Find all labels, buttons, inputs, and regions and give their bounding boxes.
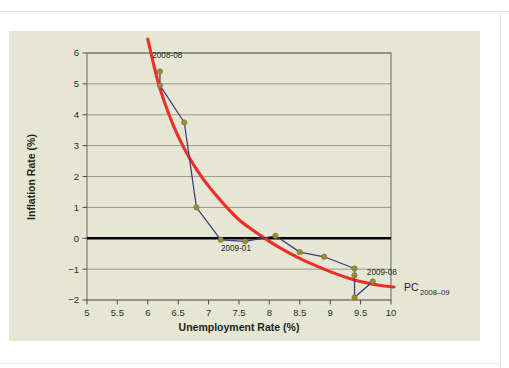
- data-point-marker: [157, 69, 162, 74]
- observation-markers: [157, 69, 375, 300]
- y-tick-label: −1: [68, 264, 79, 275]
- x-tick-label: 5.5: [111, 307, 124, 318]
- x-tick-label: 7.5: [232, 307, 245, 318]
- y-tick-label: 2: [74, 171, 79, 182]
- data-point-marker: [297, 249, 302, 254]
- annotation-2009-01: 2009-01: [221, 244, 251, 253]
- data-point-marker: [352, 273, 357, 278]
- y-tick-label: 0: [74, 233, 79, 244]
- data-point-marker: [321, 254, 326, 259]
- x-tick-label: 10: [386, 307, 397, 318]
- x-tick-label: 6: [145, 307, 150, 318]
- curve-label-main: PC: [404, 281, 419, 293]
- y-tick-label: 1: [74, 202, 79, 213]
- figure-panel: 55.566.577.588.599.510 6543210−1−2 Unemp…: [9, 31, 480, 341]
- gridlines: [87, 53, 391, 300]
- scan-seam-top: [0, 11, 509, 12]
- x-axis-tick-labels: 55.566.577.588.599.510: [84, 307, 396, 318]
- annotation-2008-08: 2008-08: [152, 51, 182, 60]
- x-tick-label: 6.5: [172, 307, 185, 318]
- y-axis-title: Inflation Rate (%): [25, 134, 37, 220]
- data-point-marker: [194, 205, 199, 210]
- y-tick-label: 6: [74, 47, 79, 58]
- observation-path: [160, 72, 373, 298]
- annotation-2009-08: 2009-08: [367, 268, 397, 277]
- x-axis-ticks: [87, 300, 391, 305]
- curve-label-subscript: 2008–09: [420, 288, 450, 297]
- data-point-marker: [182, 120, 187, 125]
- data-point-marker: [370, 279, 375, 284]
- curve-label: PC 2008–09: [404, 281, 450, 297]
- data-point-marker: [352, 295, 357, 300]
- y-tick-label: 4: [74, 109, 79, 120]
- y-tick-label: −2: [68, 294, 79, 305]
- data-point-marker: [352, 266, 357, 271]
- page-canvas: 55.566.577.588.599.510 6543210−1−2 Unemp…: [0, 0, 509, 368]
- x-tick-label: 8: [267, 307, 272, 318]
- data-point-marker: [273, 233, 278, 238]
- phillips-curve-line: [148, 39, 394, 287]
- data-point-marker: [218, 237, 223, 242]
- phillips-curve-chart: 55.566.577.588.599.510 6543210−1−2 Unemp…: [9, 31, 480, 341]
- scan-seam-bottom: [0, 363, 501, 364]
- y-axis-tick-labels: 6543210−1−2: [68, 47, 79, 305]
- x-tick-label: 8.5: [293, 307, 306, 318]
- y-tick-label: 3: [74, 140, 79, 151]
- y-tick-label: 5: [74, 78, 79, 89]
- x-axis-title: Unemployment Rate (%): [179, 321, 300, 333]
- scan-seam-right: [500, 11, 501, 368]
- data-point-marker: [157, 83, 162, 88]
- x-tick-label: 5: [84, 307, 89, 318]
- x-tick-label: 9.5: [354, 307, 367, 318]
- y-axis-ticks: [83, 53, 88, 300]
- x-tick-label: 7: [206, 307, 211, 318]
- data-annotations: 2008-082009-012009-08: [152, 51, 397, 277]
- x-tick-label: 9: [328, 307, 333, 318]
